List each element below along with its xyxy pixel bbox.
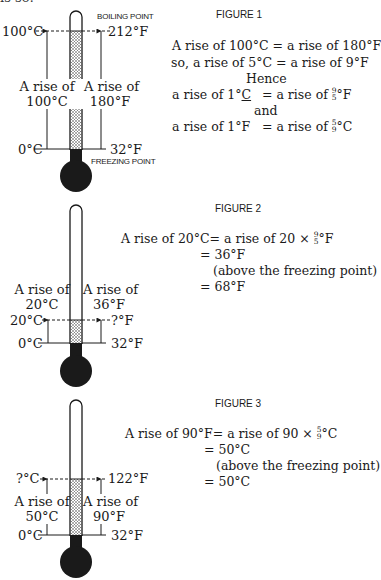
- fig3-eq2: = 50°C: [204, 442, 250, 458]
- fig1-hence: Hence: [246, 71, 287, 87]
- fig3-left-bottom: 0°C: [18, 528, 43, 543]
- fig1-eq3: a rise of 1°C: [172, 87, 251, 103]
- fraction: 95: [332, 87, 337, 101]
- fig2-left-top: 20°C: [10, 313, 43, 328]
- fig1-right-bottom: 32°F: [110, 142, 142, 157]
- fig1-right-top: 212°F: [108, 24, 148, 39]
- fig3-right-bottom: 32°F: [111, 528, 143, 543]
- freezing-point-label: FREEZING POINT: [91, 157, 155, 166]
- fig3-left-rise: A rise of 50°C: [10, 494, 74, 524]
- fig2-eq2: = 36°F: [200, 247, 245, 263]
- fraction: 59: [332, 119, 337, 133]
- fig1-eq1: A rise of 100°C = a rise of 180°F: [172, 38, 381, 54]
- figure3-caption: FIGURE 3: [215, 398, 261, 409]
- fig1-and: and: [254, 103, 278, 119]
- fig2-right-top: ?°F: [111, 313, 134, 328]
- fig3-right-top: 122°F: [108, 471, 148, 486]
- fig2-left-rise: A rise of 20°C: [10, 282, 74, 312]
- boiling-point-label: BOILING POINT: [97, 12, 154, 21]
- fig1-eq2: so, a rise of 5°C = a rise of 9°F: [171, 55, 369, 71]
- fraction: 59: [317, 426, 322, 440]
- fig2-left-bottom: 0°C: [18, 336, 43, 351]
- fig1-left-top: 100°C: [2, 24, 43, 39]
- fig1-right-rise: A rise of 180°F: [84, 79, 136, 109]
- fig3-left-top: ?°C: [16, 471, 39, 486]
- fig3-eq1: A rise of 90°F= a rise of 90 × 59°C: [125, 426, 337, 442]
- fig3-right-rise: A rise of 90°F: [83, 494, 135, 524]
- fraction: 95: [314, 231, 319, 245]
- fig3-eq3: (above the freezing point): [216, 458, 380, 474]
- fig2-eq1: A rise of 20°C= a rise of 20 × 95°F: [121, 231, 333, 247]
- figure2-caption: FIGURE 2: [215, 203, 261, 214]
- fig2-right-rise: A rise of 36°F: [83, 282, 135, 312]
- fig2-eq3: (above the freezing point): [213, 263, 377, 279]
- fig1-left-rise: A rise of 100°C: [11, 79, 83, 109]
- fig1-eq3-right: = a rise of 95°F: [262, 87, 351, 103]
- thermometer-3: [38, 400, 106, 578]
- fig1-eq4-right: = a rise of 59°C: [262, 119, 352, 135]
- figure1-caption: FIGURE 1: [216, 9, 262, 20]
- fig3-eq4: = 50°C: [204, 474, 250, 490]
- fig1-eq4: a rise of 1°F: [172, 119, 250, 135]
- fig1-left-bottom: 0°C: [18, 142, 43, 157]
- fig2-eq4: = 68°F: [200, 279, 245, 295]
- fig2-right-bottom: 32°F: [111, 336, 143, 351]
